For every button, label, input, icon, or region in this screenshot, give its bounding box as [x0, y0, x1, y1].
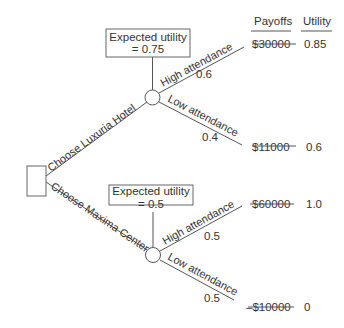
branch-luxuria-hotel: Choose Luxuria Hotel: [45, 101, 147, 176]
decision-tree-diagram: Payoffs Utility Choose Luxuria Hotel Cho…: [0, 0, 344, 328]
outcome-utility: 0.6: [306, 141, 322, 153]
expected-utility-title: Expected utility: [109, 31, 187, 43]
outcome-maxima-high: High attendance 0.5 $60000 1.0: [160, 198, 322, 251]
outcome-probability: 0.5: [204, 292, 220, 304]
payoffs-header: Payoffs: [254, 15, 292, 27]
outcome-payoff: $11000: [252, 141, 290, 153]
outcome-utility: 1.0: [306, 198, 322, 210]
outcome-utility: 0: [304, 301, 310, 313]
outcome-probability: 0.4: [202, 131, 219, 143]
column-headers: Payoffs Utility: [251, 15, 332, 31]
expected-utility-title: Expected utility: [112, 185, 190, 197]
outcome-label: Low attendance: [166, 250, 240, 297]
outcome-luxuria-low: Low attendance 0.4 $11000 0.6: [159, 92, 322, 153]
chance-node-luxuria: [145, 90, 160, 105]
outcome-maxima-low: Low attendance 0.5 –$10000 0: [160, 250, 310, 313]
branch-label: Choose Luxuria Hotel: [45, 101, 137, 173]
decision-node: [27, 166, 46, 196]
outcome-probability: 0.6: [196, 68, 212, 80]
outcome-probability: 0.5: [204, 230, 220, 242]
outcome-utility: 0.85: [304, 38, 326, 50]
expected-utility-value: = 0.5: [138, 198, 164, 210]
utility-header: Utility: [303, 15, 331, 27]
expected-utility-value: = 0.75: [132, 43, 164, 55]
chance-node-maxima: [146, 248, 161, 263]
